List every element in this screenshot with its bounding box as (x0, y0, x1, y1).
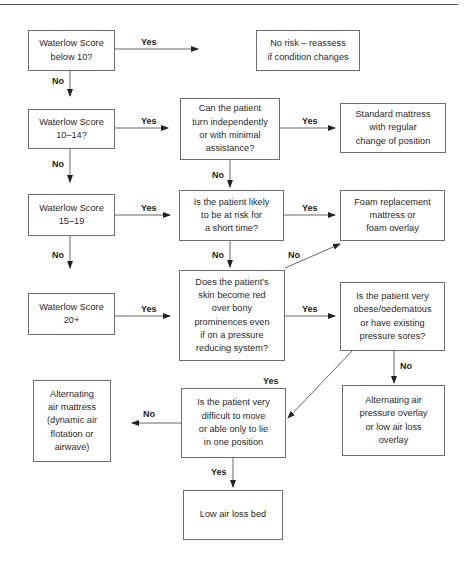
node-waterlow-20-plus: Waterlow Score 20+ (28, 293, 115, 335)
edge-label-turn-no: No (212, 170, 224, 180)
edge-label-below10-yes: Yes (141, 37, 157, 47)
node-text: Is the patient very obese/oedematous or … (353, 290, 431, 343)
edge-label-below10-no: No (52, 76, 64, 86)
node-text: Does the patient’s skin become red over … (194, 276, 269, 356)
edge-label-obese-no: No (400, 361, 412, 371)
node-text: Is the patient very difficult to move or… (197, 396, 270, 449)
edge-label-20plus-yes: Yes (141, 304, 157, 314)
node-text: Waterlow Score 10–14? (39, 116, 104, 143)
node-text: Foam replacement mattress or foam overla… (354, 196, 431, 236)
node-text: Low air loss bed (200, 508, 266, 521)
node-text: Standard mattress with regular change of… (355, 108, 430, 148)
node-waterlow-below-10: Waterlow Score below 10? (28, 30, 115, 71)
node-alternating-air-overlay: Alternating air pressure overlay or low … (342, 385, 445, 456)
edge-label-difficult-no: No (143, 409, 155, 419)
edge-label-10-14-no: No (52, 159, 64, 169)
node-text: Waterlow Score 15–19 (39, 202, 104, 229)
edge-label-10-14-yes: Yes (141, 116, 157, 126)
node-short-time-risk: Is the patient likely to be at risk for … (179, 190, 284, 241)
edge-label-difficult-yes: Yes (211, 467, 227, 477)
node-no-risk: No risk – reassess if condition changes (256, 30, 360, 71)
edge-label-short-yes: Yes (302, 203, 318, 213)
edge-label-skin-no: No (288, 250, 300, 260)
node-difficult-to-move: Is the patient very difficult to move or… (181, 388, 286, 458)
node-foam-replacement: Foam replacement mattress or foam overla… (340, 190, 445, 241)
node-text: Can the patient turn independently or wi… (192, 102, 268, 155)
edge-label-obese-yes: Yes (263, 376, 279, 386)
node-waterlow-15-19: Waterlow Score 15–19 (28, 194, 115, 236)
node-text: Alternating air mattress (dynamic air fl… (47, 388, 97, 454)
node-text: Is the patient likely to be at risk for … (194, 196, 270, 236)
node-text: Waterlow Score 20+ (39, 301, 104, 328)
node-obese-oedematous: Is the patient very obese/oedematous or … (340, 282, 445, 351)
edge-label-15-19-yes: Yes (141, 203, 157, 213)
node-low-air-loss-bed: Low air loss bed (183, 490, 283, 540)
node-text: Waterlow Score below 10? (39, 37, 104, 64)
node-alternating-air-mattress: Alternating air mattress (dynamic air fl… (33, 380, 111, 462)
edge-label-skin-yes: Yes (302, 304, 318, 314)
node-can-turn: Can the patient turn independently or wi… (180, 98, 280, 160)
edge-label-turn-yes: Yes (302, 116, 318, 126)
node-skin-red: Does the patient’s skin become red over … (179, 270, 285, 361)
edge-label-short-no: No (212, 250, 224, 260)
node-waterlow-10-14: Waterlow Score 10–14? (28, 109, 115, 149)
node-standard-mattress: Standard mattress with regular change of… (340, 103, 446, 153)
node-text: Alternating air pressure overlay or low … (360, 394, 428, 447)
edge-label-15-19-no: No (52, 250, 64, 260)
node-text: No risk – reassess if condition changes (267, 37, 348, 64)
